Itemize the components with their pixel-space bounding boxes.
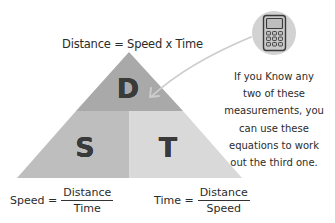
note-line: can use these: [218, 120, 330, 137]
triangle-letter-speed: S: [70, 134, 100, 161]
speed-equation-denominator: Time: [74, 201, 101, 215]
distance-formula-title: Distance = Speed x Time: [62, 37, 203, 51]
calculator-icon: [252, 11, 296, 55]
triangle-letter-time: T: [153, 134, 183, 161]
time-equation-numerator: Distance: [198, 186, 250, 201]
speed-equation-numerator: Distance: [61, 186, 113, 201]
time-equation: Time = Distance Speed: [154, 186, 250, 215]
speed-equation-lhs: Speed =: [10, 194, 57, 207]
note-line: equations to work: [218, 137, 330, 154]
triangle-letter-distance: D: [113, 75, 143, 102]
time-equation-denominator: Speed: [206, 201, 240, 215]
speed-equation-fraction: Distance Time: [61, 186, 113, 215]
note-line: If you Know any: [218, 68, 330, 85]
speed-equation: Speed = Distance Time: [10, 186, 113, 215]
note-line: out the third one.: [218, 154, 330, 171]
note-line: two of these: [218, 85, 330, 102]
time-equation-lhs: Time =: [154, 194, 194, 207]
explanation-note: If you Know any two of these measurement…: [218, 68, 330, 171]
note-line: measurements, you: [218, 102, 330, 119]
time-equation-fraction: Distance Speed: [198, 186, 250, 215]
distance-speed-time-diagram: Distance = Speed x Time D S T If you Kno…: [0, 0, 335, 223]
